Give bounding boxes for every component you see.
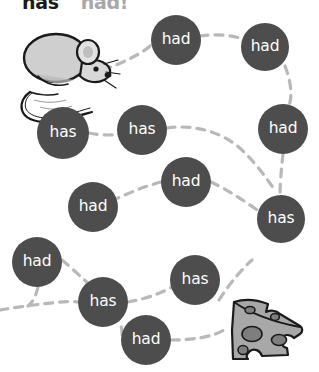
word-bubble-has[interactable]: has (37, 107, 89, 159)
word-bubble-label: had (172, 174, 201, 190)
word-bubble-had[interactable]: had (12, 237, 62, 287)
word-bubble-had[interactable]: had (151, 15, 201, 65)
word-bubble-label: had (79, 199, 108, 215)
word-bubble-has[interactable]: has (78, 277, 128, 327)
word-bubble-had[interactable]: had (121, 315, 171, 365)
word-bubble-label: had (251, 39, 280, 55)
word-bubble-has[interactable]: has (170, 255, 220, 305)
word-bubble-has[interactable]: has (257, 195, 305, 243)
word-bubble-label: has (129, 122, 156, 138)
cheese-icon (232, 300, 302, 359)
maze-path-right-descent (280, 154, 283, 196)
word-bubble-label: had (269, 121, 298, 137)
word-bubble-has[interactable]: has (117, 105, 167, 155)
word-bubble-had[interactable]: had (68, 182, 118, 232)
worksheet-page: hashad! hadhadhadha (0, 0, 319, 372)
word-bubble-label: has (50, 125, 77, 141)
word-bubble-had[interactable]: had (161, 157, 211, 207)
word-bubble-label: has (182, 272, 209, 288)
word-bubble-label: has (90, 294, 117, 310)
word-bubble-label: had (132, 332, 161, 348)
word-bubble-label: had (23, 254, 52, 270)
word-bubble-had[interactable]: had (258, 104, 308, 154)
word-bubble-label: had (162, 32, 191, 48)
word-bubble-had[interactable]: had (241, 23, 289, 71)
word-bubble-label: has (268, 211, 295, 227)
